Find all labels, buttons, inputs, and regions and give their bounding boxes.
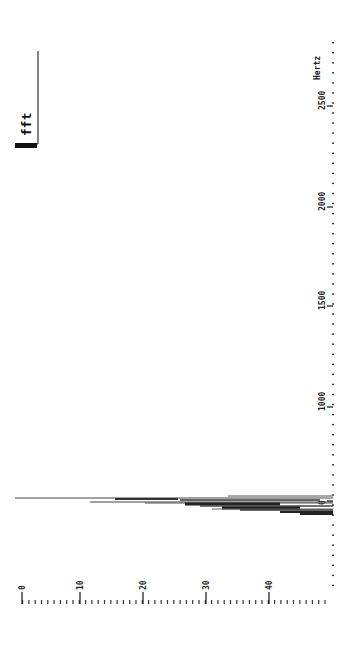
value-minor-tick — [261, 600, 262, 604]
hertz-minor-tick — [332, 434, 334, 435]
fft-series — [15, 496, 333, 514]
value-minor-tick — [217, 600, 218, 604]
value-minor-tick — [318, 600, 319, 604]
value-minor-tick — [306, 600, 307, 604]
hertz-minor-tick — [332, 303, 334, 304]
hertz-tick-label: 2500 — [318, 91, 327, 110]
value-minor-tick — [173, 600, 174, 604]
value-minor-tick — [299, 600, 300, 604]
value-minor-tick — [91, 600, 92, 604]
hertz-minor-tick — [332, 484, 334, 485]
hertz-minor-tick — [332, 253, 334, 254]
hertz-minor-tick — [332, 223, 334, 224]
value-minor-tick — [117, 600, 118, 604]
value-minor-tick — [28, 600, 29, 604]
value-minor-tick — [47, 600, 48, 604]
value-minor-tick — [287, 600, 288, 604]
value-minor-tick — [98, 600, 99, 604]
hertz-minor-tick — [332, 575, 334, 576]
hertz-minor-tick — [332, 444, 334, 445]
hertz-minor-tick — [332, 585, 334, 586]
hertz-minor-tick — [332, 424, 334, 425]
fft-chart: fft 25002000150010000 Hertz 010203040 — [0, 0, 360, 656]
hertz-minor-tick — [332, 102, 334, 103]
hertz-minor-tick — [332, 92, 334, 93]
value-minor-tick — [198, 600, 199, 604]
value-minor-tick — [324, 600, 325, 604]
hertz-minor-tick — [332, 173, 334, 174]
value-minor-tick — [66, 600, 67, 604]
value-minor-tick — [224, 600, 225, 604]
hertz-minor-tick — [332, 374, 334, 375]
hertz-minor-tick — [332, 545, 334, 546]
hertz-tick-label: 1000 — [318, 392, 327, 411]
hertz-minor-tick — [332, 404, 334, 405]
value-minor-tick — [35, 600, 36, 604]
hertz-minor-tick — [332, 153, 334, 154]
value-minor-tick — [186, 600, 187, 604]
legend-swatch — [15, 143, 37, 148]
value-minor-tick — [230, 600, 231, 604]
hertz-minor-tick — [332, 233, 334, 234]
hertz-minor-tick — [332, 62, 334, 63]
hertz-minor-tick — [332, 112, 334, 113]
value-tick-label: 10 — [76, 580, 85, 590]
value-minor-tick — [161, 600, 162, 604]
hertz-minor-tick — [332, 323, 334, 324]
value-minor-tick — [60, 600, 61, 604]
hertz-minor-tick — [332, 243, 334, 244]
hertz-minor-tick — [332, 535, 334, 536]
hertz-minor-tick — [332, 414, 334, 415]
value-minor-tick — [236, 600, 237, 604]
value-minor-tick — [211, 600, 212, 604]
value-minor-tick — [85, 600, 86, 604]
hertz-minor-tick — [332, 454, 334, 455]
hertz-minor-tick — [332, 52, 334, 53]
value-minor-tick — [110, 600, 111, 604]
value-minor-tick — [41, 600, 42, 604]
hertz-minor-tick — [332, 394, 334, 395]
value-tick-label: 30 — [202, 580, 211, 590]
value-minor-tick — [293, 600, 294, 604]
value-minor-tick — [129, 600, 130, 604]
hertz-minor-tick — [332, 555, 334, 556]
value-tick-label: 0 — [18, 585, 27, 590]
hertz-minor-tick — [332, 283, 334, 284]
hertz-minor-tick — [332, 334, 334, 335]
value-minor-tick — [180, 600, 181, 604]
hertz-minor-tick — [332, 193, 334, 194]
value-minor-tick — [54, 600, 55, 604]
hertz-minor-tick — [332, 203, 334, 204]
hertz-minor-tick — [332, 524, 334, 525]
legend-label: fft — [19, 113, 34, 136]
hertz-tick-label: 1500 — [318, 291, 327, 310]
value-minor-tick — [249, 600, 250, 604]
value-minor-tick — [243, 600, 244, 604]
hertz-tick-label: 2000 — [318, 192, 327, 211]
value-minor-tick — [167, 600, 168, 604]
hertz-minor-tick — [332, 213, 334, 214]
legend: fft — [15, 51, 38, 148]
hertz-axis: 25002000150010000 — [318, 42, 334, 586]
hertz-minor-tick — [332, 474, 334, 475]
value-minor-tick — [274, 600, 275, 604]
hertz-minor-tick — [332, 72, 334, 73]
hertz-minor-tick — [332, 565, 334, 566]
hertz-minor-tick — [332, 364, 334, 365]
value-minor-tick — [123, 600, 124, 604]
hertz-minor-tick — [332, 163, 334, 164]
hertz-minor-tick — [332, 183, 334, 184]
hertz-minor-tick — [332, 313, 334, 314]
value-minor-tick — [154, 600, 155, 604]
value-minor-tick — [192, 600, 193, 604]
value-minor-tick — [104, 600, 105, 604]
hertz-minor-tick — [332, 384, 334, 385]
hertz-minor-tick — [332, 143, 334, 144]
value-minor-tick — [148, 600, 149, 604]
hertz-minor-tick — [332, 132, 334, 133]
hertz-minor-tick — [332, 42, 334, 43]
hertz-minor-tick — [332, 464, 334, 465]
value-axis: 010203040 — [18, 580, 326, 604]
hertz-minor-tick — [332, 344, 334, 345]
value-tick-label: 20 — [139, 580, 148, 590]
